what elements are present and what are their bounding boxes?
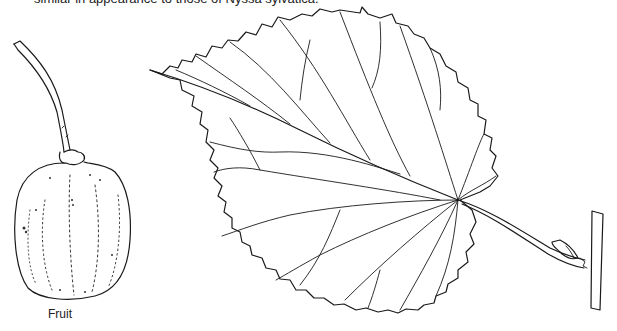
botanical-illustration [0,0,617,331]
leaf-drawing [150,7,603,313]
fruit-drawing [14,41,130,299]
fruit-label: Fruit [48,307,72,321]
